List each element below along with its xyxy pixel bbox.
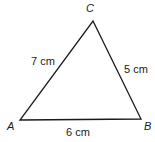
triangle-diagram: C A B 7 cm 5 cm 6 cm — [0, 0, 155, 142]
side-label-cb: 5 cm — [124, 64, 148, 75]
side-label-ac: 7 cm — [31, 56, 55, 67]
vertex-label-a: A — [7, 121, 14, 132]
vertex-label-c: C — [86, 3, 94, 14]
vertex-label-b: B — [144, 121, 151, 132]
triangle-abc — [20, 21, 141, 120]
side-label-ab: 6 cm — [66, 127, 90, 138]
